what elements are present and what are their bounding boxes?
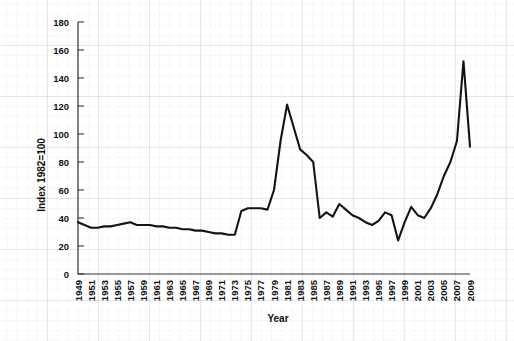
x-tick-label: 1993 (360, 280, 371, 301)
x-tick-label: 1971 (216, 279, 227, 301)
y-tick-label: 140 (53, 73, 69, 84)
x-tick-label: 1975 (242, 279, 253, 301)
x-axis-title: Year (267, 313, 288, 324)
x-tick-label: 1949 (73, 280, 84, 301)
x-tick-label: 1981 (282, 279, 293, 301)
x-tick-label: 1955 (112, 279, 123, 301)
y-axis-tick-labels: 020406080100120140160180 (53, 17, 69, 280)
x-tick-label: 1965 (177, 279, 188, 301)
y-axis-tick-marks (78, 22, 84, 274)
x-tick-label: 1959 (138, 280, 149, 301)
x-tick-label: 2009 (465, 280, 476, 301)
x-tick-label: 2005 (438, 279, 449, 301)
x-tick-label: 1983 (295, 280, 306, 301)
y-tick-label: 180 (53, 17, 69, 28)
x-tick-label: 1985 (308, 279, 319, 301)
chart-svg: 020406080100120140160180 194919511953195… (0, 0, 514, 341)
line-chart: 020406080100120140160180 194919511953195… (0, 0, 514, 341)
axis-lines (78, 22, 470, 274)
y-tick-label: 80 (58, 157, 69, 168)
x-tick-label: 1999 (399, 280, 410, 301)
y-tick-label: 120 (53, 101, 69, 112)
y-axis-title: Index 1982=100 (36, 138, 47, 212)
x-axis-tick-labels: 1949195119531955195719591961196319651967… (73, 279, 476, 301)
x-tick-label: 1987 (321, 280, 332, 301)
x-tick-label: 1953 (99, 280, 110, 301)
y-tick-label: 160 (53, 45, 69, 56)
x-tick-label: 2003 (425, 280, 436, 301)
x-tick-label: 1969 (203, 280, 214, 301)
y-tick-label: 20 (58, 241, 69, 252)
x-tick-label: 1995 (373, 279, 384, 301)
x-tick-label: 2001 (412, 279, 423, 301)
x-tick-label: 1973 (229, 280, 240, 301)
x-tick-label: 1951 (86, 279, 97, 301)
y-tick-label: 100 (53, 129, 69, 140)
x-tick-label: 2007 (451, 280, 462, 301)
y-tick-label: 0 (64, 269, 69, 280)
x-tick-label: 1977 (255, 280, 266, 301)
x-tick-label: 1967 (190, 280, 201, 301)
x-tick-label: 1997 (386, 280, 397, 301)
x-tick-label: 1979 (269, 280, 280, 301)
data-series-line (78, 61, 470, 240)
x-tick-label: 1991 (347, 279, 358, 301)
x-tick-label: 1957 (125, 280, 136, 301)
x-tick-label: 1963 (164, 280, 175, 301)
x-tick-label: 1961 (151, 279, 162, 301)
y-tick-label: 40 (58, 213, 69, 224)
y-tick-label: 60 (58, 185, 69, 196)
x-tick-label: 1989 (334, 280, 345, 301)
